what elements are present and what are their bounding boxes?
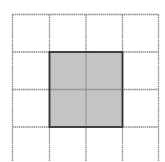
grid-diagram (0, 0, 165, 162)
